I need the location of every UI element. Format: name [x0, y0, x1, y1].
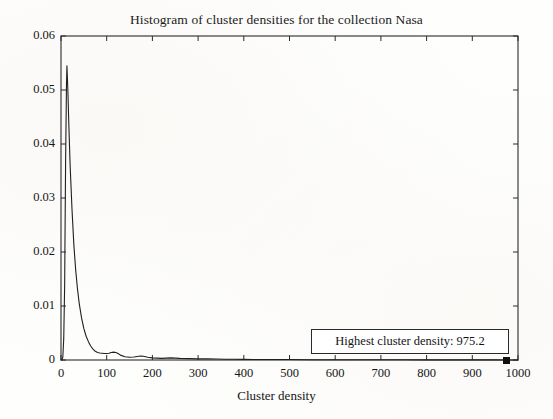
- tick-marks: [61, 36, 518, 360]
- y-tick-label: 0.04: [0, 136, 55, 151]
- y-tick-label: 0.01: [0, 298, 55, 313]
- highest-density-marker: [503, 357, 510, 364]
- histogram-figure: Histogram of cluster densities for the c…: [0, 0, 553, 419]
- highest-density-annotation: Highest cluster density: 975.2: [311, 329, 509, 354]
- y-tick-label: 0: [0, 352, 55, 367]
- y-tick-label: 0.02: [0, 244, 55, 259]
- y-tick-label: 0.06: [0, 28, 55, 43]
- y-tick-label: 0.05: [0, 82, 55, 97]
- plot-canvas: [0, 0, 553, 419]
- x-tick-label: 1000: [488, 366, 548, 381]
- highest-density-annotation-text: Highest cluster density: 975.2: [335, 334, 484, 349]
- y-tick-label: 0.03: [0, 190, 55, 205]
- axes-frame: [61, 36, 518, 360]
- x-axis-label: Cluster density: [0, 388, 553, 404]
- density-curve-line: [61, 66, 518, 360]
